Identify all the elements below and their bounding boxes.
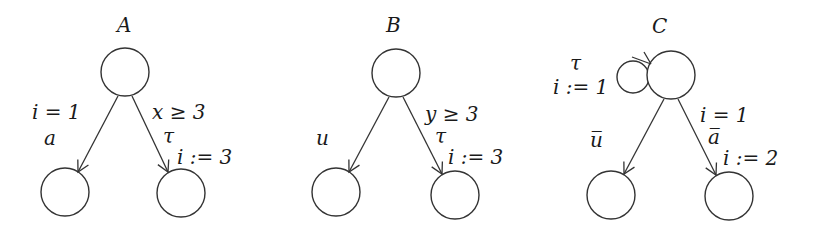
transition-edge — [349, 97, 389, 172]
loop-action: τ — [570, 51, 582, 75]
transition-edge — [624, 99, 664, 174]
edge-update: i := 2 — [723, 146, 778, 170]
state-node — [705, 172, 753, 220]
automata-diagram: A i = 1 a x ≥ 3 τ i := 3 B u y ≥ 3 τ i :… — [0, 0, 813, 233]
edge-action: a̅ — [708, 125, 720, 149]
automaton-title: A — [115, 13, 131, 37]
state-node — [372, 49, 420, 97]
state-node — [101, 48, 149, 96]
state-node — [647, 51, 695, 99]
edge-action: τ — [163, 124, 175, 148]
automaton-title: C — [652, 14, 667, 38]
edge-action: a — [44, 126, 56, 150]
edge-guard: y ≥ 3 — [424, 102, 479, 126]
automaton-title: B — [385, 13, 401, 37]
state-node — [312, 168, 360, 216]
state-node — [41, 168, 89, 216]
edge-guard: x ≥ 3 — [152, 100, 205, 124]
edge-action: τ — [435, 124, 447, 148]
transition-edge — [78, 96, 118, 172]
automaton-b: B u y ≥ 3 τ i := 3 — [312, 13, 503, 219]
state-node — [431, 171, 479, 219]
automaton-a: A i = 1 a x ≥ 3 τ i := 3 — [32, 13, 232, 217]
automaton-c: C τ i := 1 u̅ i = 1 a̅ i := 2 — [553, 14, 778, 220]
self-loop — [617, 61, 649, 93]
edge-guard: i = 1 — [32, 100, 81, 124]
edge-update: i := 3 — [448, 145, 503, 169]
state-node — [587, 171, 635, 219]
loop-update: i := 1 — [553, 75, 608, 99]
edge-update: i := 3 — [177, 145, 232, 169]
edge-guard: i = 1 — [700, 103, 749, 127]
edge-action: u — [316, 126, 329, 150]
state-node — [157, 169, 205, 217]
edge-action: u̅ — [590, 128, 603, 152]
